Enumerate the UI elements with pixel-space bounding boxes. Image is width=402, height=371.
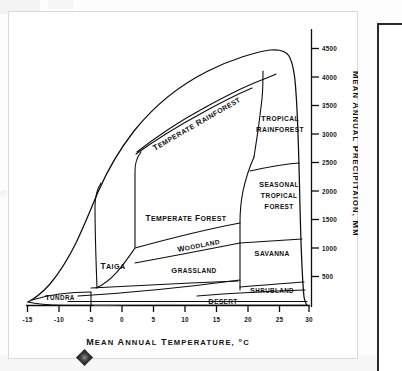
x-tick-label: 25	[276, 316, 284, 323]
x-axis: -15 -10 -5 0 5 10 15 20 25 30 MEAN ANNUA…	[23, 306, 313, 348]
divider-tropical-left	[240, 157, 254, 290]
y-tick-label: 2000	[322, 188, 337, 195]
y-tick-label: 4500	[322, 45, 337, 52]
biome-label-seasonal-tropical-forest-line2: TROPICAL	[261, 191, 298, 200]
x-tick-label: -5	[87, 316, 93, 323]
biome-label-savanna: SAVANNA	[254, 249, 289, 258]
biome-label-shrubland: SHRUBLAND	[250, 286, 294, 295]
y-tick-label: 1000	[322, 245, 337, 252]
y-tick-label: 3000	[322, 131, 337, 138]
adjacent-page-panel	[377, 23, 402, 371]
biome-label-temperate-rainforest: TEMPERATE RAINFOREST	[151, 95, 242, 153]
y-tick-label: 1500	[322, 216, 337, 223]
climate-envelope-lower	[28, 302, 307, 305]
y-axis: 500 1000 1500 2000 2500 3000 3500 4000 4…	[312, 29, 359, 307]
divider-taiga-lower	[91, 281, 238, 288]
y-tick-label: 4000	[322, 74, 337, 81]
y-axis-title: MEAN ANNUAL PRECIPITAION, MM	[351, 71, 358, 237]
x-tick-label: -10	[54, 316, 64, 323]
biome-label-grassland: GRASSLAND	[171, 266, 216, 275]
x-tick-label: 15	[213, 316, 221, 323]
x-tick-label: 20	[244, 316, 252, 323]
divider-savanna-top	[240, 239, 302, 243]
scan-speck	[48, 0, 74, 9]
y-tick-label: 2500	[322, 159, 337, 166]
biome-label-temperate-forest: TEMPERATE FOREST	[146, 214, 227, 223]
divider-temperate-rainforest-lower	[137, 74, 276, 152]
biome-label-desert: DESERT	[208, 297, 237, 306]
biome-label-seasonal-tropical-forest-line1: SEASONAL	[259, 180, 299, 189]
diamond-marker-icon	[75, 348, 94, 367]
x-tick-label: -15	[23, 316, 33, 323]
biome-label-tropical-rainforest-line2: RAINFOREST	[256, 125, 304, 134]
biome-label-tundra: TUNDRA	[45, 293, 75, 302]
scan-speck	[0, 190, 7, 197]
x-axis-title: MEAN ANNUAL TEMPERATURE, °C	[86, 337, 250, 347]
x-tick-label: 0	[120, 316, 124, 323]
divider-tropical-rainforest-lower	[250, 163, 299, 171]
divider-taiga-temperate	[135, 152, 141, 247]
biome-label-taiga: TAIGA	[101, 261, 126, 271]
biome-label-tropical-rainforest-line1: TROPICAL	[261, 114, 299, 123]
x-tick-label: 30	[305, 316, 313, 323]
whittaker-biome-diagram: -15 -10 -5 0 5 10 15 20 25 30 MEAN ANNUA…	[8, 11, 358, 359]
divider-taiga-right	[95, 183, 101, 288]
x-tick-label: 10	[181, 316, 189, 323]
biome-label-seasonal-tropical-forest-line3: FOREST	[264, 202, 293, 211]
climate-envelope-upper	[28, 50, 307, 305]
x-tick-label: 5	[152, 316, 156, 323]
y-tick-label: 3500	[322, 102, 337, 109]
y-tick-label: 500	[322, 273, 334, 280]
